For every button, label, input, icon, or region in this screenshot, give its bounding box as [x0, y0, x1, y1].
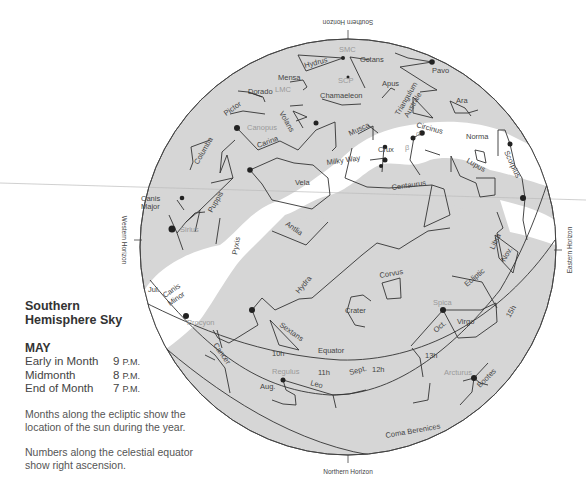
- svg-text:Ara: Ara: [456, 96, 469, 105]
- month-aug: Aug.: [260, 382, 275, 391]
- svg-text:Crater: Crater: [345, 306, 366, 315]
- svg-text:Regulus: Regulus: [272, 367, 300, 376]
- ra-11h: 11h: [318, 368, 330, 377]
- time-row-end: End of Month 7 P.M.: [25, 382, 205, 396]
- note-ecliptic: Months along the ecliptic show the locat…: [25, 408, 215, 434]
- svg-text:Pavo: Pavo: [432, 66, 449, 75]
- western-horizon-label: Western Horizon: [121, 216, 128, 265]
- northern-horizon-label: Northern Horizon: [323, 468, 373, 475]
- svg-text:Spica: Spica: [433, 298, 453, 307]
- eastern-horizon-label: Eastern Horizon: [566, 226, 573, 273]
- svg-text:α: α: [416, 129, 421, 138]
- svg-text:Crux: Crux: [378, 145, 394, 154]
- southern-horizon-label: Southern Horizon: [322, 19, 373, 26]
- svg-text:Mensa: Mensa: [278, 73, 301, 82]
- ra-13h: 13h: [425, 351, 438, 360]
- svg-text:Arcturus: Arcturus: [444, 368, 472, 377]
- svg-text:SCP: SCP: [338, 76, 353, 85]
- legend: Southern Hemisphere Sky MAY Early in Mon…: [25, 299, 205, 472]
- svg-text:Apus: Apus: [382, 79, 399, 88]
- month-jul: Jul.: [148, 285, 160, 294]
- svg-text:SMC: SMC: [339, 45, 356, 54]
- legend-title: Southern Hemisphere Sky: [25, 299, 205, 327]
- svg-text:Dorado: Dorado: [248, 87, 273, 96]
- time-row-early: Early in Month 9 P.M.: [25, 355, 205, 369]
- svg-text:Norma: Norma: [466, 132, 489, 141]
- svg-text:Octans: Octans: [360, 55, 384, 64]
- svg-text:Canopus: Canopus: [247, 123, 277, 132]
- svg-text:Vela: Vela: [295, 178, 310, 187]
- equator-label: Equator: [318, 346, 345, 355]
- svg-text:Virgo: Virgo: [457, 317, 474, 326]
- legend-month: MAY: [25, 341, 205, 355]
- time-row-mid: Midmonth 8 P.M.: [25, 369, 205, 383]
- svg-text:Chamaeleon: Chamaeleon: [320, 91, 363, 100]
- svg-text:β: β: [405, 143, 410, 152]
- ra-12h: 12h: [372, 365, 385, 374]
- svg-text:LMC: LMC: [275, 85, 291, 94]
- ra-10h: 10h: [272, 349, 285, 358]
- note-equator: Numbers along the celestial equator show…: [25, 446, 215, 472]
- svg-text:Sirius: Sirius: [180, 225, 199, 234]
- svg-text:Major: Major: [141, 202, 160, 211]
